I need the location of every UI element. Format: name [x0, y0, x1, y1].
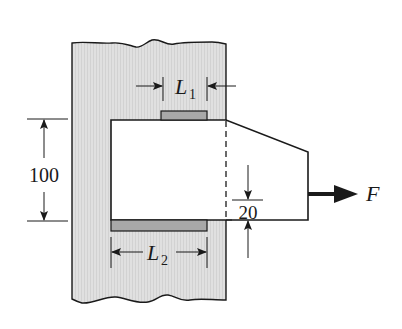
offset-value: 20: [239, 202, 258, 223]
l2-label: L: [146, 240, 159, 265]
dimension-height-100: 100: [27, 119, 68, 221]
weld-top: [161, 111, 207, 120]
weld-bottom: [111, 220, 207, 231]
l2-subscript: 2: [161, 253, 168, 268]
welded-bracket-diagram: L 1 L 2 100 20 F: [0, 0, 402, 329]
height-value: 100: [29, 164, 59, 186]
l1-subscript: 1: [189, 87, 196, 102]
bracket-member: [111, 120, 308, 220]
l1-label: L: [174, 74, 187, 99]
force-label: F: [365, 181, 380, 206]
force-arrow: F: [308, 181, 380, 206]
